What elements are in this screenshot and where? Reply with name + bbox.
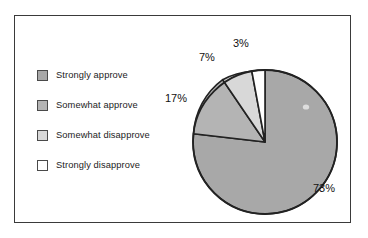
pie-svg bbox=[175, 34, 368, 229]
pie-chart: 3% 7% 17% 73% bbox=[175, 34, 368, 229]
pie-value-label-somewhat-disapprove: 7% bbox=[199, 51, 215, 63]
legend-item-somewhat-disapprove[interactable]: Somewhat disapprove bbox=[37, 120, 187, 150]
pie-highlight-speck bbox=[303, 104, 309, 109]
pie-value-label-strongly-approve: 73% bbox=[313, 182, 335, 194]
legend-swatch-strongly-approve bbox=[37, 70, 48, 81]
legend-swatch-strongly-disapprove bbox=[37, 160, 48, 171]
legend-label-somewhat-disapprove: Somewhat disapprove bbox=[56, 130, 150, 140]
legend-label-somewhat-approve: Somewhat approve bbox=[56, 100, 138, 110]
legend-label-strongly-disapprove: Strongly disapprove bbox=[56, 160, 140, 170]
legend-item-strongly-disapprove[interactable]: Strongly disapprove bbox=[37, 150, 187, 180]
legend-swatch-somewhat-disapprove bbox=[37, 130, 48, 141]
pie-value-label-somewhat-approve: 17% bbox=[165, 92, 187, 104]
chart-frame: Strongly approve Somewhat approve Somewh… bbox=[14, 15, 351, 223]
chart-legend: Strongly approve Somewhat approve Somewh… bbox=[37, 60, 187, 180]
legend-swatch-somewhat-approve bbox=[37, 100, 48, 111]
legend-item-strongly-approve[interactable]: Strongly approve bbox=[37, 60, 187, 90]
pie-value-label-strongly-disapprove: 3% bbox=[233, 37, 249, 49]
legend-label-strongly-approve: Strongly approve bbox=[56, 70, 128, 80]
